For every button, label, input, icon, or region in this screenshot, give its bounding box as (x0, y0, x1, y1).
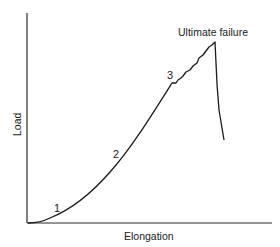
region-1-label: 1 (54, 203, 60, 214)
x-axis-label: Elongation (124, 231, 174, 242)
region-2-label: 2 (113, 149, 119, 160)
ultimate-failure-label: Ultimate failure (178, 27, 248, 38)
load-elongation-curve (28, 42, 224, 223)
region-3-label: 3 (167, 70, 173, 81)
y-axis-label: Load (12, 113, 23, 136)
